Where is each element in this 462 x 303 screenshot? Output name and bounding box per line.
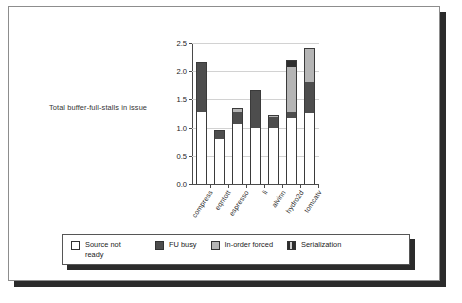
slide-frame: Total buffer-full-stalls in issue 0.00.5… bbox=[8, 6, 440, 281]
bar-segment-tomcatv-1 bbox=[304, 82, 315, 112]
in-order-forced-swatch bbox=[211, 241, 220, 250]
bar-espresso bbox=[232, 108, 243, 184]
plot-inner: 0.00.51.01.52.02.5 bbox=[192, 43, 319, 185]
legend-item-source-not-ready: Source not ready bbox=[71, 240, 141, 259]
bar-segment-alvinn-1 bbox=[268, 117, 279, 128]
chart-legend: Source not ready FU busy In-order forced… bbox=[62, 234, 410, 265]
x-tick-mark bbox=[318, 185, 319, 188]
legend-item-fu-busy: FU busy bbox=[155, 240, 197, 250]
plot-area: 0.00.51.01.52.02.5 bbox=[192, 43, 319, 185]
serialization-swatch bbox=[287, 241, 296, 250]
legend-label-source-not-ready: Source not ready bbox=[85, 240, 141, 259]
bar-segment-compress-1 bbox=[196, 62, 207, 112]
x-axis-label-eqntott: eqntott bbox=[214, 189, 232, 211]
bar-segment-tomcatv-2 bbox=[304, 48, 315, 83]
bar-li bbox=[250, 90, 261, 184]
bar-segment-hydro2d-2 bbox=[286, 67, 297, 112]
fu-busy-swatch bbox=[155, 241, 164, 250]
bar-segment-hydro2d-0 bbox=[286, 118, 297, 184]
x-axis-label-li: li bbox=[261, 189, 269, 196]
bar-segment-compress-0 bbox=[196, 112, 207, 184]
x-tick-mark bbox=[228, 185, 229, 188]
legend-item-in-order-forced: In-order forced bbox=[211, 240, 273, 250]
bar-alvinn bbox=[268, 115, 279, 184]
bar-segment-eqntott-1 bbox=[214, 130, 225, 139]
source-not-ready-swatch bbox=[71, 241, 80, 250]
bar-segment-hydro2d-3 bbox=[286, 60, 297, 67]
legend-label-serialization: Serialization bbox=[301, 240, 341, 250]
bar-segment-li-1 bbox=[250, 90, 261, 128]
y-tick-label: 0.5 bbox=[176, 151, 187, 160]
y-tick-label: 0.0 bbox=[176, 180, 187, 189]
bar-segment-tomcatv-0 bbox=[304, 113, 315, 184]
y-axis-line bbox=[192, 43, 193, 185]
y-tick-mark bbox=[189, 99, 192, 100]
y-tick-label: 2.5 bbox=[176, 39, 187, 48]
y-axis-title: Total buffer-full-stalls in issue bbox=[49, 103, 179, 112]
y-tick-mark bbox=[189, 43, 192, 44]
y-tick-mark bbox=[189, 71, 192, 72]
x-tick-mark bbox=[282, 185, 283, 188]
bar-eqntott bbox=[214, 130, 225, 184]
x-tick-mark bbox=[300, 185, 301, 188]
y-tick-label: 1.0 bbox=[176, 123, 187, 132]
x-axis-label-compress: compress bbox=[191, 189, 214, 219]
bar-hydro2d bbox=[286, 60, 297, 184]
y-tick-label: 1.5 bbox=[176, 95, 187, 104]
bar-segment-alvinn-0 bbox=[268, 128, 279, 184]
y-tick-mark bbox=[189, 184, 192, 185]
y-tick-mark bbox=[189, 128, 192, 129]
bar-segment-espresso-1 bbox=[232, 112, 243, 124]
x-axis-label-tomcatv: tomcatv bbox=[303, 189, 323, 214]
bar-segment-espresso-0 bbox=[232, 124, 243, 184]
bar-compress bbox=[196, 62, 207, 184]
bar-segment-li-0 bbox=[250, 128, 261, 184]
legend-item-serialization: Serialization bbox=[287, 240, 341, 250]
gridline bbox=[192, 71, 319, 72]
legend-label-fu-busy: FU busy bbox=[169, 240, 197, 250]
x-axis-label-hydro2d: hydro2d bbox=[284, 189, 304, 214]
legend-label-in-order-forced: In-order forced bbox=[225, 240, 273, 250]
x-tick-mark bbox=[210, 185, 211, 188]
y-tick-mark bbox=[189, 156, 192, 157]
y-tick-label: 2.0 bbox=[176, 67, 187, 76]
x-axis-label-alvinn: alvinn bbox=[270, 189, 286, 209]
bar-tomcatv bbox=[304, 48, 315, 184]
gridline bbox=[192, 43, 319, 44]
x-tick-mark bbox=[246, 185, 247, 188]
bar-segment-eqntott-0 bbox=[214, 139, 225, 184]
x-tick-mark bbox=[264, 185, 265, 188]
